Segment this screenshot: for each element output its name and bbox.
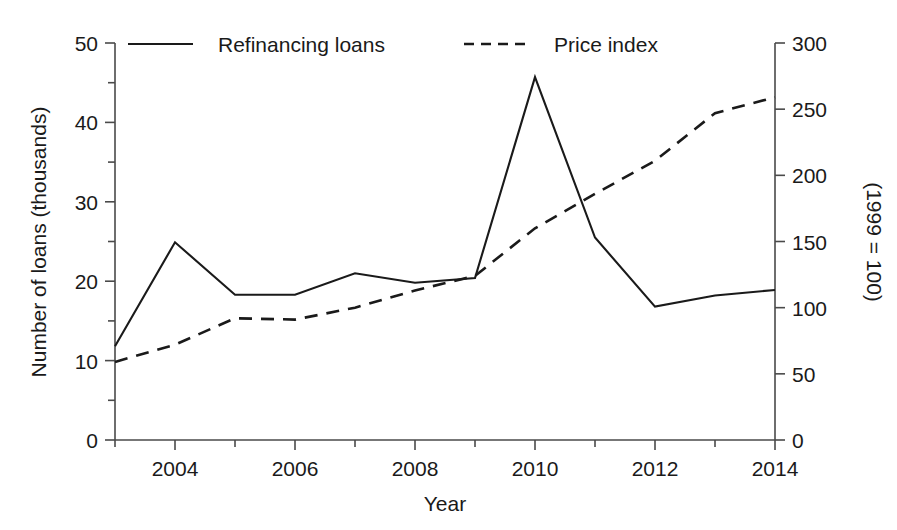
y-axis-left-ticks: 01020304050 [75,32,115,452]
y-axis-left-tick-label: 30 [75,191,98,214]
x-axis-tick-label: 2004 [152,457,199,480]
y-axis-right-tick-label: 250 [792,98,827,121]
x-axis-ticks: 200420062008201020122014 [115,440,799,480]
y-axis-left-tick-label: 10 [75,350,98,373]
legend-label-refinancing-loans: Refinancing loans [218,33,385,56]
x-axis-tick-label: 2008 [392,457,439,480]
x-axis-tick-label: 2006 [272,457,319,480]
y-axis-left-tick-label: 40 [75,111,98,134]
chart-legend: Refinancing loans Price index [128,33,658,56]
y-axis-right-tick-label: 200 [792,164,827,187]
y-axis-right-tick-label: 150 [792,231,827,254]
y-axis-right-tick-label: 50 [792,363,815,386]
series-line-price-index [115,97,775,362]
y-axis-right-tick-label: 100 [792,297,827,320]
y-axis-left-tick-label: 50 [75,32,98,55]
legend-label-price-index: Price index [554,33,658,56]
y-axis-right-tick-label: 300 [792,32,827,55]
x-axis-tick-label: 2010 [512,457,559,480]
x-axis-title: Year [424,492,466,515]
y-axis-right-title: (1999 = 100) [863,182,886,302]
y-axis-right-ticks: 050100150200250300 [775,32,827,452]
x-axis-tick-label: 2014 [752,457,799,480]
y-axis-left-title: Number of loans (thousands) [27,107,50,378]
x-axis-tick-label: 2012 [632,457,679,480]
y-axis-right-tick-label: 0 [792,429,804,452]
line-chart: Refinancing loans Price index 0102030405… [0,0,897,530]
y-axis-left-tick-label: 0 [86,429,98,452]
chart-container: Refinancing loans Price index 0102030405… [0,0,897,530]
y-axis-left-tick-label: 20 [75,270,98,293]
series-layer [115,77,775,362]
series-line-refinancing-loans [115,77,775,346]
